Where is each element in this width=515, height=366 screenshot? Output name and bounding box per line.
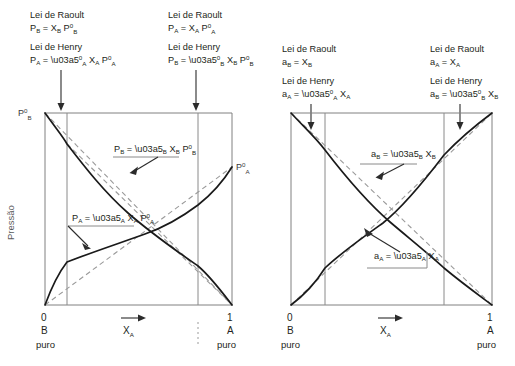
- left-ideal-lines: [45, 113, 232, 305]
- left-annotation-top-right: Lei de Raoult PA = XA P0A Lei de Henry P…: [168, 10, 254, 67]
- left-lower-curve-formula: PA = \u03a5A XA P0A: [72, 212, 155, 225]
- left-x-min-species: B: [41, 325, 48, 336]
- two-panel-thermodynamics-figure: Lei de Raoult PB = XB P0B Lei de Henry P…: [0, 0, 515, 366]
- left-x-max-value: 1: [227, 312, 233, 323]
- right2-raoult-formula: aA = XA: [430, 57, 461, 68]
- figure-root: Lei de Raoult PB = XB P0B Lei de Henry P…: [0, 0, 515, 366]
- left-henry-title: Lei de Henry: [30, 42, 82, 52]
- right-raoult-formula: aB = XB: [282, 57, 312, 68]
- right-raoult-title: Lei de Raoult: [282, 44, 337, 54]
- left-x-min-value: 0: [41, 312, 47, 323]
- right-x-axis-labels: 0 B puro 1 A puro XA: [281, 312, 496, 350]
- left-x-max-species: A: [227, 325, 234, 336]
- left-curve-pb: [45, 113, 232, 305]
- left-raoult-formula: PB = XB P0B: [30, 22, 77, 35]
- right-panel-group: Lei de Raoult aB = XB Lei de Henry aA = …: [281, 44, 498, 350]
- left-plot-frame: [45, 113, 232, 305]
- right-label-upper-curve: aB = \u03a5B XB: [360, 149, 436, 180]
- right-x-min-value: 0: [287, 312, 293, 323]
- left-x-axis-title: XA: [123, 325, 135, 338]
- right2-henry-formula: aB = \u03a50B XB: [430, 88, 498, 101]
- right-ideal-lines: [291, 113, 492, 305]
- left-y-axis-title: Pressão: [5, 205, 16, 240]
- right-x-max-state: puro: [477, 339, 496, 350]
- left2-henry-title: Lei de Henry: [168, 42, 220, 52]
- right-annotation-top-right: Lei de Raoult aA = XA Lei de Henry aB = …: [430, 44, 498, 101]
- right-annotation-arrows: [308, 104, 464, 130]
- left-panel-group: Lei de Raoult PB = XB P0B Lei de Henry P…: [5, 10, 254, 350]
- left-marker-p0a: P0A: [236, 161, 250, 175]
- figure-caption: [0, 350, 515, 366]
- left2-henry-formula: PB = \u03a50B XB P0B: [168, 54, 254, 67]
- left2-raoult-title: Lei de Raoult: [168, 10, 223, 20]
- left-henry-formula: PA = \u03a50A XA P0A: [30, 54, 116, 67]
- right-annotation-top-left: Lei de Raoult aB = XB Lei de Henry aA = …: [282, 44, 351, 101]
- right-henry-title: Lei de Henry: [282, 76, 334, 86]
- right-x-axis-title: XA: [380, 325, 392, 338]
- left-reference-lines: [67, 113, 198, 305]
- left-x-max-state: puro: [217, 339, 236, 350]
- right-upper-curve-formula: aB = \u03a5B XB: [371, 149, 436, 160]
- right2-raoult-title: Lei de Raoult: [430, 44, 485, 54]
- right-x-min-state: puro: [281, 339, 300, 350]
- left-label-upper-curve: PB = \u03a5B XB P0B: [113, 143, 196, 175]
- left-annotation-arrows: [58, 70, 200, 111]
- left-annotation-top-left: Lei de Raoult PB = XB P0B Lei de Henry P…: [30, 10, 116, 67]
- right-lower-curve-formula: aA = \u03a5A XA: [374, 251, 440, 262]
- left-x-axis-labels: 0 B puro 1 A puro XA: [36, 312, 236, 350]
- left-marker-p0b: P0B: [18, 107, 32, 121]
- left2-raoult-formula: PA = XA P0A: [168, 22, 216, 35]
- right-reference-lines: [325, 113, 444, 305]
- right-henry-formula: aA = \u03a50A XA: [282, 88, 351, 101]
- right-x-max-species: A: [487, 325, 494, 336]
- left-label-lower-curve: PA = \u03a5A XA P0A: [68, 212, 155, 250]
- right-x-min-species: B: [287, 325, 294, 336]
- right-label-lower-curve: aA = \u03a5A XA: [364, 228, 440, 268]
- right-x-max-value: 1: [487, 312, 493, 323]
- left-raoult-title: Lei de Raoult: [30, 10, 85, 20]
- right2-henry-title: Lei de Henry: [430, 76, 482, 86]
- left-x-min-state: puro: [36, 339, 55, 350]
- left-upper-curve-formula: PB = \u03a5B XB P0B: [114, 143, 196, 156]
